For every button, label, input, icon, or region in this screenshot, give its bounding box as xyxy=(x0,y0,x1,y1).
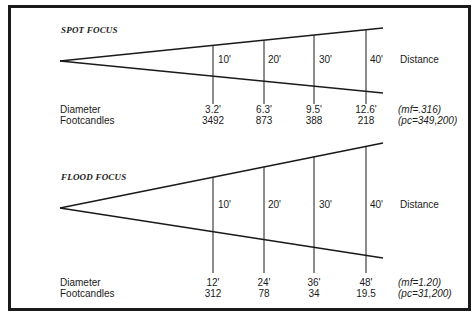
flood-footcandles-30: 34 xyxy=(294,288,334,299)
spot-footcandles-30: 388 xyxy=(294,115,334,126)
spot-distance-20: 20' xyxy=(268,54,281,65)
beam-diagram-lines xyxy=(0,0,474,319)
flood-diameter-10: 12' xyxy=(193,277,233,288)
flood-distance-30: 30' xyxy=(319,199,332,210)
flood-distance-20: 20' xyxy=(268,199,281,210)
flood-mf: (mf=1.20) xyxy=(398,277,441,288)
flood-diameter-label: Diameter xyxy=(60,277,101,288)
spot-diameter-30: 9.5' xyxy=(294,104,334,115)
spot-footcandles-10: 3492 xyxy=(193,115,233,126)
spot-pc: (pc=349,200) xyxy=(398,115,457,126)
spot-distance-40: 40' xyxy=(370,54,383,65)
flood-footcandles-20: 78 xyxy=(244,288,284,299)
flood-focus-title: FLOOD FOCUS xyxy=(61,172,126,182)
spot-mf: (mf=.316) xyxy=(398,104,441,115)
flood-pc: (pc=31,200) xyxy=(398,288,452,299)
flood-footcandles-40: 19.5 xyxy=(346,288,386,299)
flood-footcandles-label: Footcandles xyxy=(60,288,114,299)
flood-distance-40: 40' xyxy=(370,199,383,210)
spot-footcandles-20: 873 xyxy=(244,115,284,126)
spot-diameter-label: Diameter xyxy=(60,104,101,115)
spot-diameter-40: 12.6' xyxy=(346,104,386,115)
spot-distance-30: 30' xyxy=(319,54,332,65)
flood-distance-label: Distance xyxy=(400,199,439,210)
spot-distance-label: Distance xyxy=(400,54,439,65)
spot-diameter-10: 3.2' xyxy=(193,104,233,115)
spot-footcandles-label: Footcandles xyxy=(60,115,114,126)
spot-footcandles-40: 218 xyxy=(346,115,386,126)
flood-diameter-20: 24' xyxy=(244,277,284,288)
spot-diameter-20: 6.3' xyxy=(244,104,284,115)
spot-focus-title: SPOT FOCUS xyxy=(61,25,118,35)
flood-footcandles-10: 312 xyxy=(193,288,233,299)
flood-diameter-40: 48' xyxy=(346,277,386,288)
spot-distance-10: 10' xyxy=(218,54,231,65)
flood-diameter-30: 36' xyxy=(294,277,334,288)
flood-distance-10: 10' xyxy=(218,199,231,210)
